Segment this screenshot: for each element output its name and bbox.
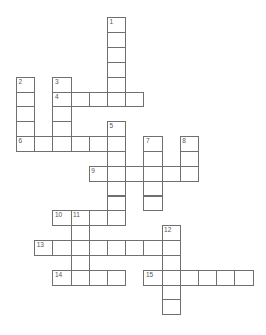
clue-number: 11 xyxy=(73,211,80,218)
crossword-cell[interactable]: 15 xyxy=(143,270,162,286)
crossword-cell[interactable] xyxy=(107,136,126,152)
crossword-cell[interactable] xyxy=(107,270,126,286)
crossword-cell[interactable] xyxy=(107,32,126,48)
clue-number: 6 xyxy=(19,137,23,144)
crossword-cell[interactable] xyxy=(89,210,108,226)
clue-number: 12 xyxy=(164,226,171,233)
clue-number: 1 xyxy=(110,18,114,25)
crossword-cell[interactable]: 14 xyxy=(52,270,71,286)
clue-number: 14 xyxy=(55,271,62,278)
crossword-cell[interactable] xyxy=(107,196,126,212)
crossword-cell[interactable] xyxy=(107,92,126,108)
crossword-cell[interactable] xyxy=(143,166,162,182)
crossword-cell[interactable] xyxy=(107,240,126,256)
crossword-cell[interactable]: 12 xyxy=(162,225,181,241)
crossword-cell[interactable] xyxy=(216,270,235,286)
crossword-cell[interactable] xyxy=(107,181,126,197)
crossword-cell[interactable]: 8 xyxy=(180,136,199,152)
crossword-cell[interactable] xyxy=(107,166,126,182)
crossword-cell[interactable] xyxy=(162,255,181,271)
crossword-cell[interactable] xyxy=(180,151,199,167)
crossword-cell[interactable] xyxy=(16,121,35,137)
crossword-cell[interactable] xyxy=(16,106,35,122)
crossword-cell[interactable] xyxy=(125,92,144,108)
crossword-cell[interactable] xyxy=(71,92,90,108)
crossword-cell[interactable] xyxy=(125,166,144,182)
crossword-cell[interactable] xyxy=(34,136,53,152)
clue-number: 8 xyxy=(182,137,186,144)
crossword-cell[interactable] xyxy=(107,47,126,63)
crossword-cell[interactable] xyxy=(162,285,181,301)
crossword-cell[interactable] xyxy=(107,151,126,167)
crossword-cell[interactable]: 4 xyxy=(52,92,71,108)
clue-number: 5 xyxy=(110,122,114,129)
crossword-cell[interactable] xyxy=(52,240,71,256)
crossword-cell[interactable]: 3 xyxy=(52,77,71,93)
crossword-cell[interactable] xyxy=(71,136,90,152)
crossword-cell[interactable] xyxy=(107,77,126,93)
clue-number: 9 xyxy=(91,167,95,174)
crossword-cell[interactable] xyxy=(16,92,35,108)
crossword-cell[interactable] xyxy=(180,166,199,182)
crossword-cell[interactable] xyxy=(89,270,108,286)
crossword-cell[interactable] xyxy=(107,210,126,226)
crossword-cell[interactable] xyxy=(143,196,162,212)
crossword-cell[interactable] xyxy=(143,240,162,256)
crossword-cell[interactable] xyxy=(234,270,253,286)
crossword-cell[interactable] xyxy=(71,225,90,241)
crossword-cell[interactable] xyxy=(162,166,181,182)
crossword-cell[interactable] xyxy=(125,240,144,256)
crossword-cell[interactable]: 2 xyxy=(16,77,35,93)
clue-number: 2 xyxy=(19,78,23,85)
crossword-cell[interactable]: 1 xyxy=(107,17,126,33)
crossword-cell[interactable]: 6 xyxy=(16,136,35,152)
crossword-cell[interactable] xyxy=(180,270,199,286)
crossword-cell[interactable] xyxy=(162,299,181,315)
crossword-cell[interactable]: 5 xyxy=(107,121,126,137)
crossword-cell[interactable] xyxy=(52,106,71,122)
clue-number: 15 xyxy=(146,271,153,278)
crossword-cell[interactable] xyxy=(162,270,181,286)
crossword-cell[interactable] xyxy=(89,92,108,108)
crossword-cell[interactable]: 7 xyxy=(143,136,162,152)
clue-number: 10 xyxy=(55,211,62,218)
crossword-cell[interactable] xyxy=(107,62,126,78)
clue-number: 3 xyxy=(55,78,59,85)
crossword-cell[interactable] xyxy=(89,240,108,256)
crossword-cell[interactable] xyxy=(89,136,108,152)
crossword-cell[interactable] xyxy=(52,121,71,137)
crossword-cell[interactable] xyxy=(143,181,162,197)
crossword-grid: 126345789101112131415 xyxy=(0,0,266,335)
crossword-cell[interactable] xyxy=(71,240,90,256)
crossword-cell[interactable]: 11 xyxy=(71,210,90,226)
crossword-cell[interactable] xyxy=(71,270,90,286)
clue-number: 7 xyxy=(146,137,150,144)
crossword-cell[interactable] xyxy=(52,136,71,152)
crossword-cell[interactable] xyxy=(143,151,162,167)
crossword-cell[interactable] xyxy=(71,255,90,271)
crossword-cell[interactable] xyxy=(162,240,181,256)
crossword-cell[interactable]: 9 xyxy=(89,166,108,182)
clue-number: 13 xyxy=(37,241,44,248)
crossword-cell[interactable]: 13 xyxy=(34,240,53,256)
crossword-cell[interactable] xyxy=(198,270,217,286)
clue-number: 4 xyxy=(55,93,59,100)
crossword-cell[interactable]: 10 xyxy=(52,210,71,226)
